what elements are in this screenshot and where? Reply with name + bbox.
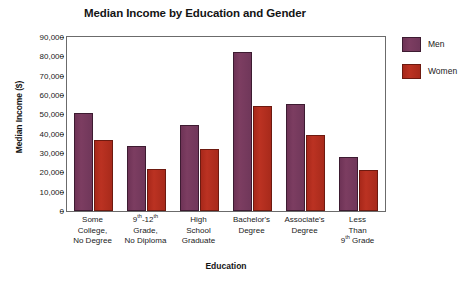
y-axis-tick-label: 30,000 — [18, 149, 64, 158]
legend-label-men: Men — [428, 39, 445, 49]
chart-legend: Men Women — [402, 36, 466, 90]
bar-group — [226, 37, 279, 211]
bar-group — [67, 37, 120, 211]
bar-women — [306, 135, 325, 211]
y-axis-tick-label: 60,000 — [18, 91, 64, 100]
y-axis-tick-label: 10,000 — [18, 187, 64, 196]
bar-women — [147, 169, 166, 211]
bar-group — [279, 37, 332, 211]
y-axis-tick-label: 0 — [18, 207, 64, 216]
x-axis-tick-labels: SomeCollege,No Degree9th-12thGrade,No Di… — [66, 215, 386, 261]
y-axis-tick-label: 40,000 — [18, 129, 64, 138]
x-axis-title: Education — [66, 261, 386, 271]
y-axis-tick-label: 50,000 — [18, 110, 64, 119]
bar-chart: Median Income by Education and Gender Me… — [0, 0, 468, 284]
bar-men — [286, 104, 305, 211]
bar-group — [120, 37, 173, 211]
y-axis-tick-labels: 90,00080,00070,00060,00050,00040,00030,0… — [12, 36, 64, 212]
bar-men — [74, 113, 93, 211]
bar-men — [127, 146, 146, 211]
bar-women — [359, 170, 378, 211]
legend-item-men: Men — [402, 36, 466, 52]
x-axis-tick-label: LessThan9th Grade — [331, 215, 384, 247]
legend-label-women: Women — [428, 66, 457, 76]
bar-women — [200, 149, 219, 211]
legend-swatch-men-icon — [402, 37, 421, 52]
y-axis-tick-label: 70,000 — [18, 71, 64, 80]
x-axis-tick-label: SomeCollege,No Degree — [66, 215, 119, 247]
x-axis-tick-label: HighSchoolGraduate — [172, 215, 225, 247]
bar-men — [233, 52, 252, 211]
x-axis-tick-label: Bachelor'sDegree — [225, 215, 278, 236]
legend-swatch-women-icon — [402, 64, 421, 79]
chart-title: Median Income by Education and Gender — [0, 7, 390, 19]
bar-men — [339, 157, 358, 211]
legend-item-women: Women — [402, 63, 466, 79]
x-axis-tick-label: Associate'sDegree — [278, 215, 331, 236]
y-axis-tick-label: 20,000 — [18, 168, 64, 177]
y-axis-tick-label: 80,000 — [18, 52, 64, 61]
bar-men — [180, 125, 199, 211]
bar-group — [173, 37, 226, 211]
bar-women — [253, 106, 272, 211]
bar-group — [332, 37, 385, 211]
bars-layer — [67, 37, 385, 211]
x-axis-tick-label: 9th-12thGrade,No Diploma — [119, 215, 172, 247]
y-axis-tick-label: 90,000 — [18, 33, 64, 42]
bar-women — [94, 140, 113, 211]
